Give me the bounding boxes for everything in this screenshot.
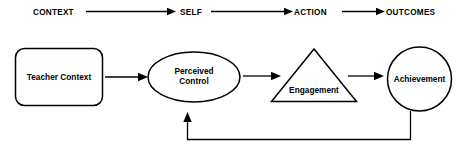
stage-connector-context-self <box>86 8 176 15</box>
arrowhead-icon <box>374 72 384 80</box>
stage-label-self: SELF <box>180 8 202 17</box>
diagram-canvas: CONTEXT SELF ACTION OUTCOMES Teacher Con… <box>0 0 465 152</box>
node-label-perceived-control-line2: Control <box>179 76 209 86</box>
stage-label-action: ACTION <box>294 8 327 17</box>
node-label-teacher-context: Teacher Context <box>27 72 92 82</box>
arrowhead-icon <box>138 73 148 81</box>
node-teacher-context: Teacher Context <box>16 49 103 106</box>
arrowhead-icon <box>183 112 191 122</box>
stage-row: CONTEXT SELF ACTION OUTCOMES <box>33 8 436 17</box>
node-engagement: Engagement <box>272 49 357 102</box>
feedback-loop-achievement-to-control <box>183 111 410 140</box>
connector-control-to-engagement <box>243 72 281 80</box>
connector-context-to-control <box>105 73 148 81</box>
stage-label-context: CONTEXT <box>33 8 74 17</box>
node-perceived-control: Perceived Control <box>148 52 240 102</box>
node-label-perceived-control-line1: Perceived <box>174 66 213 76</box>
arrowhead-icon <box>284 8 293 15</box>
arrowhead-icon <box>376 8 385 15</box>
node-achievement: Achievement <box>388 47 452 111</box>
process-diagram: CONTEXT SELF ACTION OUTCOMES Teacher Con… <box>0 0 465 152</box>
connector-engagement-to-achievement <box>348 72 384 80</box>
stage-label-outcomes: OUTCOMES <box>386 8 436 17</box>
node-label-achievement: Achievement <box>394 74 446 84</box>
arrowhead-icon <box>271 72 281 80</box>
stage-connector-action-outcomes <box>342 8 385 15</box>
arrowhead-icon <box>167 8 176 15</box>
stage-connector-self-action <box>211 8 293 15</box>
node-label-engagement: Engagement <box>289 85 339 95</box>
